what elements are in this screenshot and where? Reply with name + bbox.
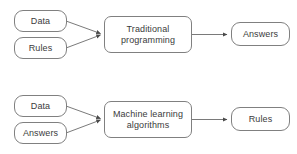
- node-label: Answers: [240, 29, 281, 40]
- node-label: Answers: [20, 128, 61, 139]
- node-label: Machine learning algorithms: [110, 109, 186, 131]
- connector-top-data-to-process: [66, 21, 101, 34]
- node-label: Rules: [246, 114, 276, 125]
- node-label: Traditional programming: [118, 24, 178, 46]
- connector-bottom-data-to-process: [66, 106, 101, 119]
- diagram-canvas: Data Rules Traditional programming Answe…: [0, 0, 297, 154]
- node-bottom-input-data[interactable]: Data: [14, 95, 67, 117]
- node-top-output-answers[interactable]: Answers: [231, 22, 290, 46]
- node-label: Rules: [26, 43, 56, 54]
- node-bottom-input-answers[interactable]: Answers: [14, 122, 67, 144]
- connector-bottom-answers-to-process: [66, 120, 101, 133]
- connector-top-rules-to-process: [66, 35, 101, 48]
- node-top-input-data[interactable]: Data: [14, 10, 67, 32]
- node-bottom-process-machine-learning-algorithms[interactable]: Machine learning algorithms: [104, 101, 192, 138]
- node-label: Data: [28, 101, 53, 112]
- node-bottom-output-rules[interactable]: Rules: [231, 107, 290, 131]
- node-label: Data: [28, 16, 53, 27]
- node-top-process-traditional-programming[interactable]: Traditional programming: [104, 16, 192, 53]
- node-top-input-rules[interactable]: Rules: [14, 37, 67, 59]
